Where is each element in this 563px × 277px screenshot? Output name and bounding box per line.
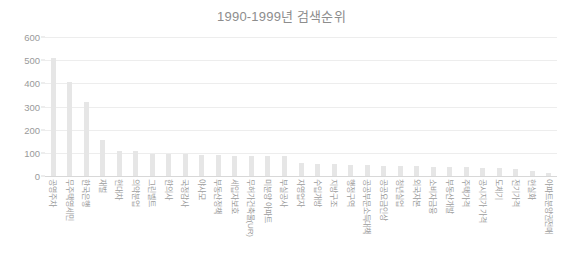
x-axis-tick-label: 현실화 — [527, 179, 536, 200]
bar — [332, 164, 337, 176]
bar — [232, 156, 237, 176]
x-axis-tick-label: 야사모 — [196, 179, 205, 200]
bar — [51, 58, 56, 176]
bar — [67, 82, 72, 176]
x-axis-tick-label: 국정감사 — [180, 179, 189, 207]
y-axis-tick — [41, 152, 45, 153]
x-axis-tick-label: 한국은행 — [81, 179, 90, 207]
y-axis-tick — [41, 60, 45, 61]
y-axis-tick — [41, 83, 45, 84]
y-axis: 0100200300400500600 — [0, 37, 40, 176]
y-axis-tick — [41, 176, 45, 177]
bar — [348, 165, 353, 176]
x-axis-tick-label: 무주택영세민 — [64, 179, 73, 220]
x-axis-labels: 공영주차무주택영세민한국은행재벌현대차의약분업그린벨트한의사국정감사야사모부동산… — [45, 179, 557, 275]
x-axis-tick-label: 재벌 — [97, 179, 106, 193]
bar — [431, 167, 436, 176]
bar — [447, 167, 452, 176]
bar — [530, 171, 535, 176]
x-axis-tick-label: 부동산정책 — [213, 179, 222, 214]
x-axis-tick-label: 수입개방 — [312, 179, 321, 207]
y-axis-tick — [41, 106, 45, 107]
x-axis-tick-label: 공공부문소득대책 — [362, 179, 371, 234]
x-axis-tick-label: 부실공사 — [279, 179, 288, 207]
y-axis-tick-label: 100 — [0, 147, 40, 158]
bar — [150, 154, 155, 176]
bar — [546, 173, 551, 176]
bar — [249, 156, 254, 176]
x-axis-tick-label: 그린벨트 — [147, 179, 156, 207]
x-axis-tick-label: 현대차 — [114, 179, 123, 200]
x-axis-tick-label: 청년실업 — [395, 179, 404, 207]
plot-area — [45, 37, 557, 176]
bar — [117, 151, 122, 176]
bar — [513, 169, 518, 176]
x-axis-tick-label: 자영업자 — [296, 179, 305, 207]
bar-series — [45, 37, 557, 176]
bar — [282, 156, 287, 176]
x-axis-tick-label: 공시지가 가격 — [477, 179, 486, 223]
bar — [299, 163, 304, 176]
x-axis-tick-label: 주택가격 — [461, 179, 470, 207]
x-axis-tick-label: 도체기 — [494, 179, 503, 200]
y-axis-tick-label: 200 — [0, 124, 40, 135]
x-axis-tick-label: 외국자본 — [411, 179, 420, 207]
bar — [100, 140, 105, 176]
bar — [398, 166, 403, 176]
x-axis-tick-label: 의약분업 — [130, 179, 139, 207]
y-axis-tick — [41, 37, 45, 38]
y-axis-tick-label: 500 — [0, 55, 40, 66]
bar — [133, 151, 138, 176]
gridline — [45, 176, 557, 177]
chart-container: 1990-1999년 검색순위 0100200300400500600 공영주차… — [0, 0, 563, 277]
x-axis-tick-label: 한의사 — [163, 179, 172, 200]
x-axis-tick-label: 공영주차 — [48, 179, 57, 207]
bar — [365, 165, 370, 176]
x-axis-tick-label: 행정구역 — [345, 179, 354, 207]
x-axis-tick-label: 무허가건축물(UR) — [246, 179, 255, 237]
bar — [315, 164, 320, 176]
bar — [199, 155, 204, 176]
bar — [497, 168, 502, 176]
bar — [464, 167, 469, 176]
x-axis-tick-label: 전기가격 — [510, 179, 519, 207]
y-axis-tick — [41, 129, 45, 130]
bar — [414, 166, 419, 176]
bar — [84, 102, 89, 176]
bar — [183, 154, 188, 176]
x-axis-tick-label: 미분양 아파트 — [262, 179, 271, 223]
y-axis-tick-label: 0 — [0, 171, 40, 182]
x-axis-tick-label: 지방구조 — [329, 179, 338, 207]
x-axis-tick-label: 아파트분양권전매 — [543, 179, 552, 234]
bar — [381, 166, 386, 176]
bar — [216, 155, 221, 176]
x-axis-tick-label: 공공요금인상 — [378, 179, 387, 220]
y-axis-tick-label: 400 — [0, 78, 40, 89]
x-axis-tick-label: 세입자보호 — [229, 179, 238, 214]
x-axis-tick-label: 부동산개발 — [444, 179, 453, 214]
bar — [480, 168, 485, 176]
y-axis-tick-label: 300 — [0, 101, 40, 112]
bar — [265, 156, 270, 176]
x-axis-tick-label: 소비자금융 — [428, 179, 437, 214]
y-axis-tick-label: 600 — [0, 32, 40, 43]
chart-title: 1990-1999년 검색순위 — [0, 6, 563, 25]
bar — [166, 154, 171, 176]
